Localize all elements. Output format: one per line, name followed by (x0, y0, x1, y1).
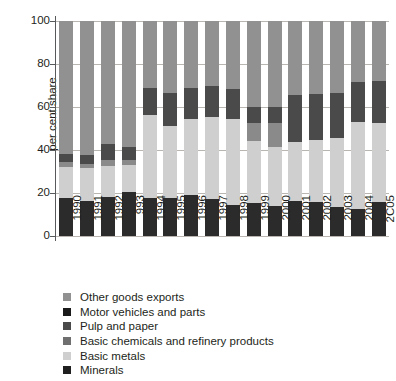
legend-swatch-icon (63, 322, 71, 330)
y-axis-label-40: 40 (10, 144, 50, 156)
bar-segment-basic-chemicals-and-refinery-products[interactable] (80, 164, 94, 168)
legend-swatch-icon (63, 337, 71, 345)
bar-segment-other-goods-exports[interactable] (143, 21, 157, 88)
x-axis-label-1990: 1990 (71, 195, 83, 241)
legend-label: Basic chemicals and refinery products (80, 335, 274, 347)
legend-label: Basic metals (80, 350, 145, 362)
bar-segment-basic-metals[interactable] (226, 119, 240, 205)
bar-segment-basic-metals[interactable] (205, 117, 219, 200)
y-axis-label-80: 80 (10, 58, 50, 70)
legend-item-basic-metals[interactable]: Basic metals (63, 348, 383, 363)
chart-legend: Other goods exportsMotor vehicles and pa… (63, 290, 383, 378)
x-axis-label-1991: 1991 (92, 195, 104, 241)
x-axis-label-1996: 1996 (196, 195, 208, 241)
legend-item-other-goods-exports[interactable]: Other goods exports (63, 290, 383, 305)
legend-swatch-icon (63, 308, 71, 316)
bar-segment-basic-metals[interactable] (184, 119, 198, 195)
bar-segment-basic-metals[interactable] (372, 123, 386, 201)
legend-item-motor-vehicles-and-parts[interactable]: Motor vehicles and parts (63, 305, 383, 320)
bar-segment-basic-chemicals-and-refinery-products[interactable] (59, 162, 73, 167)
bar-segment-basic-chemicals-and-refinery-products[interactable] (101, 160, 115, 166)
x-axis-label-1999: 1999 (259, 195, 271, 241)
bar-segment-basic-metals[interactable] (309, 140, 323, 201)
bar-segment-pulp-and-paper[interactable] (351, 82, 365, 122)
bar-segment-pulp-and-paper[interactable] (268, 107, 282, 123)
legend-label: Motor vehicles and parts (80, 306, 205, 318)
bar-segment-pulp-and-paper[interactable] (226, 89, 240, 119)
bar-segment-pulp-and-paper[interactable] (205, 86, 219, 117)
bar-segment-pulp-and-paper[interactable] (143, 88, 157, 115)
bar-segment-other-goods-exports[interactable] (163, 21, 177, 93)
bar-segment-basic-chemicals-and-refinery-products[interactable] (122, 160, 136, 165)
bar-segment-other-goods-exports[interactable] (351, 21, 365, 82)
bar-segment-pulp-and-paper[interactable] (309, 94, 323, 140)
bar-segment-other-goods-exports[interactable] (122, 21, 136, 147)
bar-segment-basic-metals[interactable] (59, 167, 73, 198)
x-axis-label-1995: 1995 (175, 195, 187, 241)
legend-label: Minerals (80, 364, 123, 376)
x-axis-label-993: 993 (134, 195, 146, 241)
x-axis-label-1998: 1998 (238, 195, 250, 241)
bar-segment-other-goods-exports[interactable] (309, 21, 323, 94)
bar-segment-basic-metals[interactable] (247, 141, 261, 202)
x-axis-label-1994: 1994 (155, 195, 167, 241)
legend-swatch-icon (63, 352, 71, 360)
y-tick-0 (50, 236, 55, 237)
bar-segment-basic-metals[interactable] (101, 166, 115, 197)
x-axis-label-2003: 2003 (342, 195, 354, 241)
y-axis-label-60: 60 (10, 101, 50, 113)
legend-item-pulp-and-paper[interactable]: Pulp and paper (63, 319, 383, 334)
x-axis-label-1992: 1992 (113, 195, 125, 241)
bar-segment-other-goods-exports[interactable] (80, 21, 94, 155)
bar-segment-pulp-and-paper[interactable] (80, 155, 94, 164)
bar-segment-other-goods-exports[interactable] (59, 21, 73, 154)
y-axis-label-100: 100 (10, 15, 50, 27)
legend-item-basic-chemicals-and-refinery-products[interactable]: Basic chemicals and refinery products (63, 334, 383, 349)
bar-segment-other-goods-exports[interactable] (372, 21, 386, 81)
bar-segment-other-goods-exports[interactable] (330, 21, 344, 93)
bar-segment-basic-chemicals-and-refinery-products[interactable] (268, 123, 282, 147)
bar-segment-pulp-and-paper[interactable] (101, 144, 115, 160)
bar-segment-pulp-and-paper[interactable] (330, 93, 344, 138)
x-axis-label-2004: 2004 (363, 195, 375, 241)
x-axis-label-2C05: 2C05 (384, 195, 396, 241)
bar-segment-other-goods-exports[interactable] (101, 21, 115, 144)
bar-segment-basic-metals[interactable] (163, 126, 177, 198)
x-axis-label-2001: 2001 (300, 195, 312, 241)
x-axis-label-1997: 1997 (217, 195, 229, 241)
bar-segment-pulp-and-paper[interactable] (372, 81, 386, 123)
bar-segment-other-goods-exports[interactable] (184, 21, 198, 88)
bar-segment-pulp-and-paper[interactable] (122, 147, 136, 160)
bar-segment-basic-chemicals-and-refinery-products[interactable] (247, 123, 261, 141)
bar-segment-pulp-and-paper[interactable] (184, 88, 198, 119)
y-tick-100 (50, 21, 55, 22)
bar-segment-basic-metals[interactable] (143, 115, 157, 199)
y-axis-label-0: 0 (10, 230, 50, 242)
bar-segment-basic-metals[interactable] (122, 165, 136, 192)
bar-segment-other-goods-exports[interactable] (226, 21, 240, 89)
y-tick-40 (50, 150, 55, 151)
bar-segment-pulp-and-paper[interactable] (59, 154, 73, 162)
bar-segment-other-goods-exports[interactable] (247, 21, 261, 107)
legend-swatch-icon (63, 293, 71, 301)
y-tick-20 (50, 193, 55, 194)
x-axis-label-2000: 2000 (280, 195, 292, 241)
y-tick-60 (50, 107, 55, 108)
legend-label: Pulp and paper (80, 320, 158, 332)
bar-segment-pulp-and-paper[interactable] (288, 95, 302, 142)
bar-segment-basic-metals[interactable] (288, 142, 302, 200)
bar-segment-pulp-and-paper[interactable] (247, 107, 261, 123)
legend-item-minerals[interactable]: Minerals (63, 363, 383, 378)
bar-segment-other-goods-exports[interactable] (288, 21, 302, 95)
bar-segment-pulp-and-paper[interactable] (163, 93, 177, 126)
bar-segment-other-goods-exports[interactable] (268, 21, 282, 107)
bar-segment-other-goods-exports[interactable] (205, 21, 219, 86)
y-axis-label-20: 20 (10, 187, 50, 199)
legend-label: Other goods exports (80, 291, 184, 303)
legend-swatch-icon (63, 366, 71, 374)
x-axis-label-2002: 2002 (321, 195, 333, 241)
y-tick-80 (50, 64, 55, 65)
